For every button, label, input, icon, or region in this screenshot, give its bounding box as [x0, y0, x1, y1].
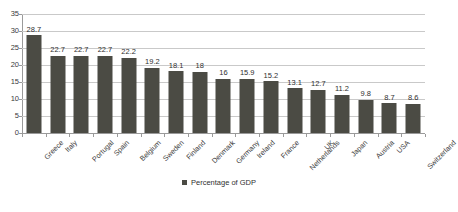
bar-value-label: 22.7 — [50, 46, 65, 54]
x-tick-label: Denmark — [210, 139, 236, 165]
x-tick-mark — [283, 134, 284, 137]
bar-value-label: 15.9 — [240, 69, 255, 77]
x-tick-mark — [259, 134, 260, 137]
bar-group: 8.7 — [378, 14, 402, 133]
x-tick-label: Sweden — [162, 139, 186, 163]
x-tick-label: USA — [396, 139, 412, 155]
y-tick-label: 30 — [3, 27, 19, 35]
bar-group: 8.6 — [401, 14, 425, 133]
bar-group: 28.7 — [22, 14, 46, 133]
x-tick-mark — [212, 134, 213, 137]
bar-group: 22.7 — [69, 14, 93, 133]
x-tick-mark — [46, 134, 47, 137]
x-tick-mark — [117, 134, 118, 137]
y-tick-label: 35 — [3, 10, 19, 18]
x-tick-label: Austria — [374, 139, 395, 160]
x-tick-mark — [93, 134, 94, 137]
y-tick-label: 20 — [3, 61, 19, 69]
x-tick-mark — [306, 134, 307, 137]
chart-legend: Percentage of GDP — [0, 178, 438, 187]
bar-value-label: 12.7 — [311, 80, 326, 88]
bar-value-label: 16 — [219, 69, 227, 77]
bar-group: 18 — [188, 14, 212, 133]
y-tick-label: 15 — [3, 78, 19, 86]
x-axis: GreeceItalyPortugalSpainBelgiumSwedenFin… — [22, 134, 425, 182]
y-tick-label: 0 — [3, 129, 19, 137]
bar-group: 15.2 — [259, 14, 283, 133]
x-tick-label: Finland — [185, 139, 207, 161]
bar[interactable] — [50, 56, 65, 133]
x-tick-mark — [141, 134, 142, 137]
x-tick-mark — [235, 134, 236, 137]
y-tick-label: 10 — [3, 95, 19, 103]
bar-value-label: 22.2 — [121, 48, 136, 56]
x-tick-label: Italy — [63, 139, 78, 154]
bar[interactable] — [216, 79, 231, 133]
x-tick-label: Belgium — [138, 139, 162, 163]
bar[interactable] — [145, 68, 160, 133]
y-tick-label: 5 — [3, 112, 19, 120]
bar-group: 22.2 — [117, 14, 141, 133]
bar-group: 11.2 — [330, 14, 354, 133]
x-tick-label: Greece — [43, 139, 65, 161]
bar[interactable] — [358, 100, 373, 133]
bar[interactable] — [169, 71, 184, 133]
bar-value-label: 15.2 — [264, 72, 279, 80]
y-tick-label: 25 — [3, 44, 19, 52]
bar-group: 15.9 — [235, 14, 259, 133]
bar-value-label: 13.1 — [287, 79, 302, 87]
x-tick-mark — [22, 134, 23, 137]
bar-group: 18.1 — [164, 14, 188, 133]
bar-value-label: 11.2 — [335, 85, 349, 93]
bar-value-label: 22.7 — [74, 46, 89, 54]
x-tick-mark — [188, 134, 189, 137]
x-tick-mark — [330, 134, 331, 137]
x-tick-mark — [164, 134, 165, 137]
bar-value-label: 8.7 — [384, 94, 394, 102]
bar[interactable] — [192, 72, 207, 133]
x-tick-label: Japan — [350, 139, 370, 159]
bar-value-label: 19.2 — [145, 58, 160, 66]
bar[interactable] — [382, 103, 397, 133]
x-tick-label: Spain — [112, 139, 131, 158]
bar[interactable] — [406, 104, 421, 133]
bar[interactable] — [240, 79, 255, 133]
bar[interactable] — [121, 58, 136, 133]
bar[interactable] — [97, 56, 112, 133]
bar[interactable] — [263, 81, 278, 133]
legend-label: Percentage of GDP — [191, 178, 256, 187]
bar-value-label: 8.6 — [408, 94, 418, 102]
legend-swatch-icon — [182, 180, 187, 185]
bar-value-label: 22.7 — [98, 46, 113, 54]
x-tick-label: France — [279, 139, 300, 160]
x-tick-mark — [69, 134, 70, 137]
bar-group: 22.7 — [46, 14, 70, 133]
bar[interactable] — [311, 90, 326, 133]
bar[interactable] — [335, 95, 350, 133]
x-tick-mark — [401, 134, 402, 137]
bar-group: 22.7 — [93, 14, 117, 133]
bar[interactable] — [26, 35, 41, 133]
bar[interactable] — [74, 56, 89, 133]
bar-group: 19.2 — [141, 14, 165, 133]
bar-group: 9.8 — [354, 14, 378, 133]
bar-value-label: 18.1 — [169, 62, 184, 70]
bar-value-label: 9.8 — [361, 90, 371, 98]
bar-value-label: 18 — [196, 62, 204, 70]
x-tick-label: Switzerland — [426, 139, 458, 171]
x-tick-mark — [425, 134, 426, 137]
x-tick-mark — [354, 134, 355, 137]
bar-group: 13.1 — [283, 14, 307, 133]
bar-value-label: 28.7 — [27, 26, 42, 34]
plot-area: 28.722.722.722.722.219.218.1181615.915.2… — [22, 14, 425, 133]
bar-group: 16 — [212, 14, 236, 133]
x-tick-mark — [378, 134, 379, 137]
bar-group: 12.7 — [306, 14, 330, 133]
bar[interactable] — [287, 88, 302, 133]
